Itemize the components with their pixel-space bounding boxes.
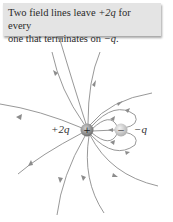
plus-sign: + <box>83 125 91 135</box>
arrowheads <box>16 70 130 183</box>
positive-charge-label: +2q <box>51 123 69 135</box>
minus-sign: − <box>117 125 125 135</box>
field-line-diagram: + − <box>0 0 173 222</box>
negative-charge-label: −q <box>134 123 147 135</box>
